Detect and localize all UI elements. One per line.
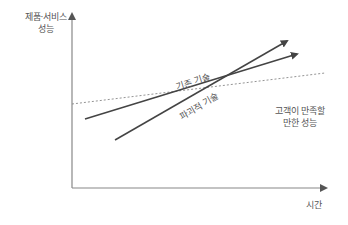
y-axis-label-line1: 제품·서비스 [18,11,74,23]
y-axis-label: 제품·서비스 성능 [18,11,74,35]
x-axis-label: 시간 [306,199,322,211]
customer-performance-label-line1: 고객이 만족할 [262,105,338,117]
customer-performance-label: 고객이 만족할 만한 성능 [262,105,338,129]
y-axis-label-line2: 성능 [18,23,74,35]
customer-performance-label-line2: 만한 성능 [262,117,338,129]
